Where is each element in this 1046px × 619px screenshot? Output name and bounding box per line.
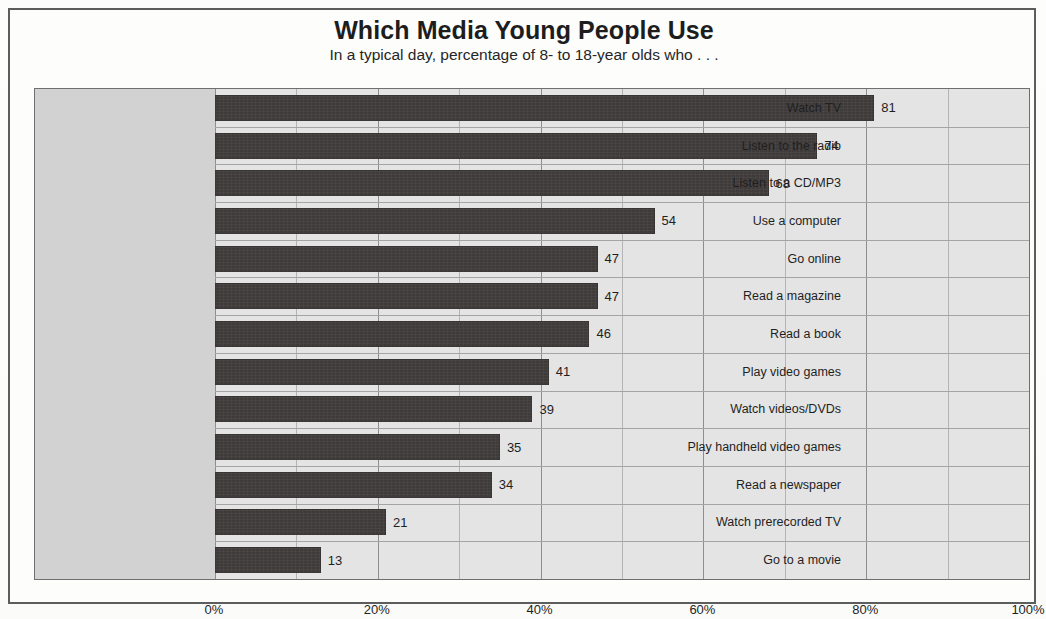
bar-value-label: 47	[605, 290, 619, 303]
category-label: Play handheld video games	[666, 441, 841, 454]
category-label: Watch TV	[666, 102, 841, 115]
bar-value-label: 13	[328, 554, 342, 567]
bar-row[interactable]: 81	[215, 89, 1029, 127]
category-label: Go to a movie	[666, 554, 841, 567]
bar-row[interactable]: 39	[215, 391, 1029, 429]
bar-value-label: 39	[539, 403, 553, 416]
bar[interactable]	[215, 547, 321, 573]
bar[interactable]	[215, 509, 386, 535]
x-axis-tick-label: 100%	[1011, 602, 1044, 617]
category-label: Listen to the radio	[666, 140, 841, 153]
bar-row[interactable]: 34	[215, 466, 1029, 504]
bar-value-label: 34	[499, 478, 513, 491]
category-label: Watch prerecorded TV	[666, 516, 841, 529]
category-label: Watch videos/DVDs	[666, 403, 841, 416]
bar[interactable]	[215, 359, 549, 385]
x-axis-tick-label: 20%	[364, 602, 390, 617]
category-label: Read a newspaper	[666, 479, 841, 492]
bar-row[interactable]: 68	[215, 164, 1029, 202]
bar[interactable]	[215, 396, 532, 422]
chart-title: Which Media Young People Use	[10, 16, 1038, 44]
plot-area: 81746854474746413935342113 Watch TVListe…	[34, 88, 1030, 580]
x-axis-tick-label: 0%	[205, 602, 224, 617]
category-label-band	[35, 89, 215, 579]
bar[interactable]	[215, 283, 598, 309]
bar-value-label: 81	[881, 101, 895, 114]
bar[interactable]	[215, 321, 589, 347]
bars-canvas: 81746854474746413935342113	[215, 89, 1029, 579]
bar[interactable]	[215, 472, 492, 498]
bar[interactable]	[215, 208, 655, 234]
bar[interactable]	[215, 246, 598, 272]
chart-subtitle: In a typical day, percentage of 8- to 18…	[10, 46, 1038, 64]
bar-value-label: 47	[605, 252, 619, 265]
bar-row[interactable]: 21	[215, 504, 1029, 542]
category-label: Read a magazine	[666, 290, 841, 303]
bar-value-label: 21	[393, 516, 407, 529]
bar-value-label: 46	[596, 327, 610, 340]
chart-header: Which Media Young People Use In a typica…	[10, 16, 1038, 64]
category-label: Play video games	[666, 366, 841, 379]
bar-value-label: 35	[507, 441, 521, 454]
bar-row[interactable]: 13	[215, 541, 1029, 579]
bar-row[interactable]: 46	[215, 315, 1029, 353]
bar-row[interactable]: 41	[215, 353, 1029, 391]
category-label: Use a computer	[666, 215, 841, 228]
bar-row[interactable]: 54	[215, 202, 1029, 240]
category-label: Go online	[666, 253, 841, 266]
x-axis-tick-label: 80%	[852, 602, 878, 617]
bar-row[interactable]: 47	[215, 277, 1029, 315]
x-axis: 0%20%40%60%80%100%	[214, 588, 1030, 619]
chart-frame: Which Media Young People Use In a typica…	[8, 8, 1036, 604]
bar-row[interactable]: 47	[215, 240, 1029, 278]
bar[interactable]	[215, 434, 500, 460]
x-axis-tick-label: 40%	[527, 602, 553, 617]
bar-value-label: 41	[556, 365, 570, 378]
bar-row[interactable]: 74	[215, 127, 1029, 165]
plot-wrapper: 81746854474746413935342113 Watch TVListe…	[34, 88, 1030, 580]
category-label: Listen to a CD/MP3	[666, 177, 841, 190]
category-label: Read a book	[666, 328, 841, 341]
bar-row[interactable]: 35	[215, 428, 1029, 466]
x-axis-tick-label: 60%	[689, 602, 715, 617]
